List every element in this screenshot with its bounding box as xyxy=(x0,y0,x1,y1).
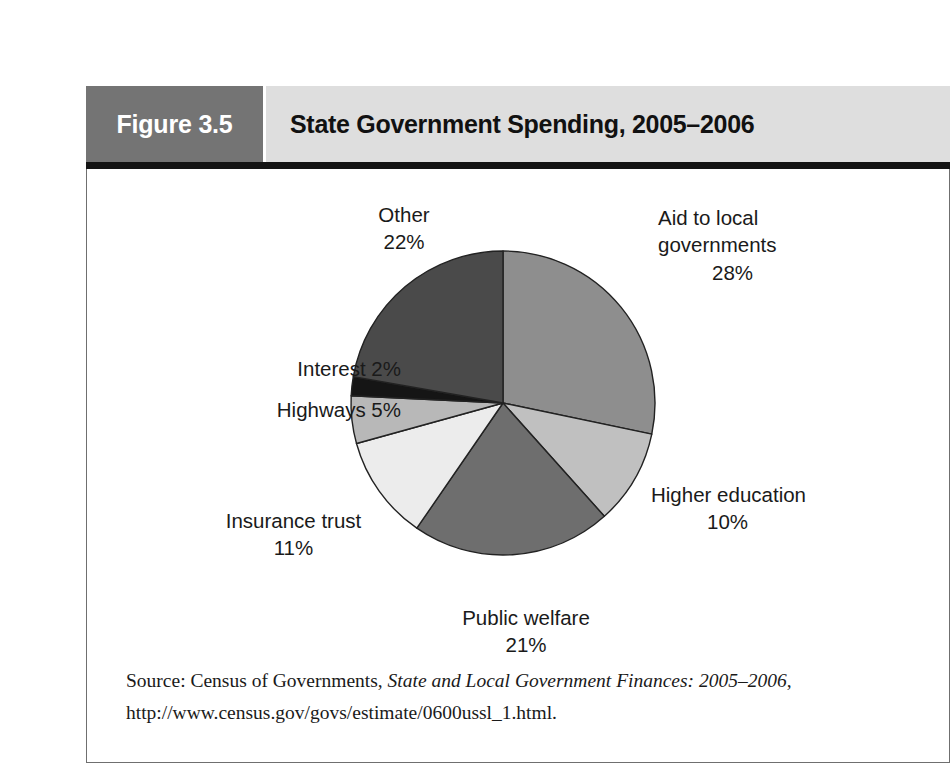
pie-label-public-welfare-value: 21% xyxy=(416,631,636,658)
pie-label-other-name: Other xyxy=(344,201,464,228)
pie-label-other-value: 22% xyxy=(344,228,464,255)
header-underline-rule xyxy=(86,162,950,169)
figure-title: State Government Spending, 2005–2006 xyxy=(290,110,754,139)
pie-label-higher-education-name: Higher education xyxy=(651,481,881,508)
pie-label-highways-text: Highways 5% xyxy=(196,396,401,423)
pie-label-interest: Interest 2% xyxy=(196,355,401,382)
pie-label-aid-value: 28% xyxy=(658,259,878,286)
pie-label-insurance-trust: Insurance trust 11% xyxy=(186,507,401,562)
pie-label-insurance-trust-name: Insurance trust xyxy=(186,507,401,534)
source-note: Source: Census of Governments, State and… xyxy=(126,665,921,728)
pie-label-aid-name-line1: Aid to local xyxy=(658,204,878,231)
pie-label-public-welfare: Public welfare 21% xyxy=(416,604,636,659)
source-publication-title: State and Local Government Finances: 200… xyxy=(388,670,787,691)
pie-label-aid-to-local-governments: Aid to local governments 28% xyxy=(658,204,878,286)
figure-header: Figure 3.5 State Government Spending, 20… xyxy=(86,86,950,162)
pie-slice-aid-to-local-governments xyxy=(503,251,655,434)
figure-number-block: Figure 3.5 xyxy=(86,86,263,162)
pie-label-other: Other 22% xyxy=(344,201,464,256)
figure-frame: Figure 3.5 State Government Spending, 20… xyxy=(43,43,907,720)
pie-label-aid-name-line2: governments xyxy=(658,231,878,258)
pie-label-interest-text: Interest 2% xyxy=(196,355,401,382)
pie-label-higher-education-value: 10% xyxy=(651,508,881,535)
pie-label-public-welfare-name: Public welfare xyxy=(416,604,636,631)
source-url: www.census.gov/govs/estimate/0600ussl_1.… xyxy=(173,702,557,723)
pie-chart-area: Other 22% Aid to local governments 28% H… xyxy=(86,169,950,649)
source-prefix: Source: Census of Governments, xyxy=(126,670,388,691)
figure-title-block: State Government Spending, 2005–2006 xyxy=(263,86,950,162)
pie-label-higher-education: Higher education 10% xyxy=(651,481,881,536)
pie-label-highways: Highways 5% xyxy=(196,396,401,423)
figure-number-label: Figure 3.5 xyxy=(116,110,232,139)
pie-label-insurance-trust-value: 11% xyxy=(186,534,401,561)
